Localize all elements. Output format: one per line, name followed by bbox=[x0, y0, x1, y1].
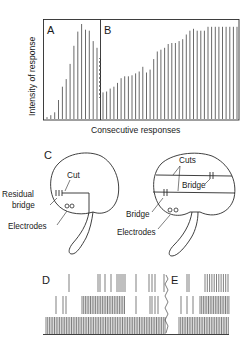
left-electrode-1 bbox=[65, 204, 69, 208]
label-residual-bridge: bridge bbox=[12, 201, 35, 210]
label-cut: Cut bbox=[67, 171, 80, 180]
left-brain-outline bbox=[51, 153, 119, 214]
right-electrode-1 bbox=[168, 208, 172, 212]
label-cuts: Cuts bbox=[179, 156, 196, 165]
left-brainstem bbox=[69, 212, 93, 254]
chart-frame bbox=[44, 20, 240, 121]
trace-rows bbox=[46, 274, 229, 334]
panel-label-b: B bbox=[104, 24, 111, 36]
left-brain: Cut Residual bridge Electrodes bbox=[2, 153, 119, 254]
right-brain: Cuts Bridge Bridge Electrodes bbox=[117, 153, 235, 256]
left-electrode-2 bbox=[70, 204, 74, 208]
cuts-pointer-lower bbox=[178, 166, 180, 191]
spike-traces: D E bbox=[42, 274, 229, 335]
right-brainstem bbox=[169, 212, 198, 256]
label-residual: Residual bbox=[2, 190, 34, 199]
diagram-c: C Cut Residual bridge Electrodes bbox=[2, 149, 235, 256]
x-axis-label: Consecutive responses bbox=[91, 125, 180, 135]
trace-break-zigzag bbox=[165, 275, 168, 333]
label-lower-bridge: Bridge bbox=[126, 210, 150, 219]
cuts-pointer-upper bbox=[173, 166, 180, 175]
figure: A B Intensity of response Consecutive re… bbox=[0, 0, 247, 346]
label-upper-bridge: Bridge bbox=[182, 181, 206, 190]
label-right-electrodes: Electrodes bbox=[117, 228, 156, 237]
lower-cut-line bbox=[153, 192, 235, 193]
label-left-electrodes: Electrodes bbox=[8, 222, 47, 231]
panel-label-c: C bbox=[44, 149, 52, 161]
panel-label-d: D bbox=[42, 274, 50, 286]
upper-cut-line bbox=[156, 175, 232, 176]
left-electrodes-pointer bbox=[57, 211, 67, 225]
right-electrode-2 bbox=[174, 208, 178, 212]
lower-bridge-pointer bbox=[152, 198, 163, 212]
cut-pointer bbox=[65, 180, 70, 191]
response-chart: A B Intensity of response Consecutive re… bbox=[27, 20, 239, 136]
y-axis-label: Intensity of response bbox=[27, 36, 37, 116]
right-electrodes-pointer bbox=[158, 215, 170, 229]
response-bars bbox=[47, 24, 237, 119]
panel-label-a: A bbox=[47, 24, 55, 36]
upper-bridge-pointer bbox=[205, 179, 210, 184]
panel-label-e: E bbox=[171, 274, 178, 286]
